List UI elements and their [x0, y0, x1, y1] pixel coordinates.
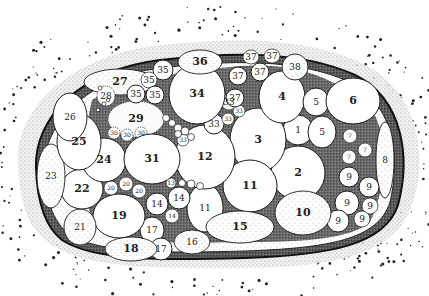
scatter-dot	[11, 188, 13, 190]
scatter-dot	[144, 24, 147, 27]
scatter-dot	[37, 74, 39, 76]
scatter-dot	[371, 277, 373, 279]
scatter-dot	[386, 257, 388, 259]
scatter-dot	[343, 258, 345, 260]
scatter-dot	[377, 250, 380, 253]
scatter-dot	[135, 38, 138, 41]
scatter-dot	[75, 285, 78, 288]
region-label: 33	[179, 136, 187, 143]
scatter-dot	[27, 76, 30, 79]
scatter-dot	[158, 41, 160, 43]
scatter-dot	[8, 202, 10, 204]
scatter-dot	[69, 58, 71, 60]
scatter-dot	[77, 263, 78, 264]
scatter-dot	[80, 278, 81, 279]
scatter-dot	[58, 57, 61, 60]
scatter-dot	[146, 19, 148, 21]
scatter-dot	[345, 25, 346, 26]
scatter-dot	[233, 26, 235, 28]
scatter-dot	[75, 274, 76, 275]
scatter-dot	[316, 38, 319, 41]
region-label: 35	[157, 65, 169, 75]
region-label: 25	[71, 135, 86, 148]
scatter-dot	[117, 46, 120, 49]
scatter-dot	[115, 48, 118, 51]
region-label: 13	[167, 179, 175, 186]
scatter-dot	[198, 26, 201, 29]
scatter-dot	[358, 255, 361, 258]
scatter-dot	[396, 243, 398, 245]
scatter-dot	[252, 289, 253, 290]
scatter-dot	[366, 36, 369, 39]
scatter-dot	[10, 195, 11, 196]
scatter-dot	[282, 23, 284, 25]
region-label: 9	[344, 198, 350, 208]
scatter-dot	[187, 7, 188, 8]
scatter-dot	[425, 134, 427, 136]
scatter-dot	[412, 99, 415, 102]
scatter-dot	[1, 166, 3, 168]
scatter-dot	[258, 279, 261, 282]
scatter-dot	[421, 77, 423, 79]
region-label: 5	[313, 97, 319, 107]
region-label: 37	[266, 51, 278, 61]
scatter-dot	[88, 269, 90, 271]
vesicle	[179, 180, 186, 187]
region-label: 34	[189, 87, 205, 100]
region-label: 26	[64, 112, 76, 122]
scatter-dot	[396, 61, 399, 64]
scatter-dot	[109, 35, 112, 38]
scatter-dot	[3, 129, 6, 132]
region-label: 14	[151, 199, 163, 209]
vesicle	[98, 86, 102, 90]
scatter-dot	[52, 256, 55, 259]
scatter-dot	[32, 49, 35, 52]
scatter-dot	[405, 67, 407, 69]
scatter-dot	[386, 243, 387, 244]
scatter-dot	[234, 11, 237, 14]
region-label: 37	[229, 93, 241, 103]
scatter-dot	[336, 274, 338, 276]
scatter-dot	[147, 16, 150, 19]
vesicle	[96, 108, 100, 112]
scatter-dot	[280, 39, 281, 40]
scatter-dot	[119, 18, 121, 20]
scatter-dot	[9, 237, 12, 240]
scatter-dot	[412, 233, 413, 234]
scatter-dot	[12, 88, 13, 89]
region-label: 20	[107, 184, 115, 191]
region-label: 24	[96, 153, 112, 166]
scatter-dot	[20, 87, 22, 89]
scatter-dot	[177, 29, 180, 32]
region-label: 7	[347, 153, 351, 160]
scatter-dot	[392, 260, 395, 263]
scatter-dot	[39, 41, 42, 44]
scatter-dot	[152, 293, 154, 295]
scatter-dot	[9, 102, 10, 103]
region-label: 9	[346, 172, 352, 182]
scatter-dot	[313, 276, 315, 278]
scatter-dot	[24, 79, 27, 82]
scatter-dot	[132, 277, 134, 279]
scatter-dot	[248, 289, 251, 292]
scatter-dot	[77, 262, 78, 263]
scatter-dot	[111, 52, 112, 53]
scatter-dot	[379, 38, 382, 41]
scatter-dot	[12, 93, 15, 96]
scatter-dot	[425, 211, 427, 213]
scatter-dot	[425, 122, 427, 124]
scatter-dot	[214, 17, 217, 20]
scatter-dot	[15, 116, 17, 118]
scatter-dot	[75, 257, 77, 259]
scatter-dot	[3, 225, 4, 226]
scatter-dot	[423, 163, 424, 164]
scatter-dot	[203, 294, 205, 296]
scatter-dot	[368, 54, 371, 57]
scatter-dot	[107, 266, 110, 269]
scatter-dot	[241, 286, 244, 289]
scatter-dot	[356, 35, 359, 38]
scatter-dot	[35, 73, 36, 74]
scatter-dot	[57, 251, 60, 254]
scatter-dot	[219, 290, 221, 292]
scatter-dot	[389, 69, 391, 71]
